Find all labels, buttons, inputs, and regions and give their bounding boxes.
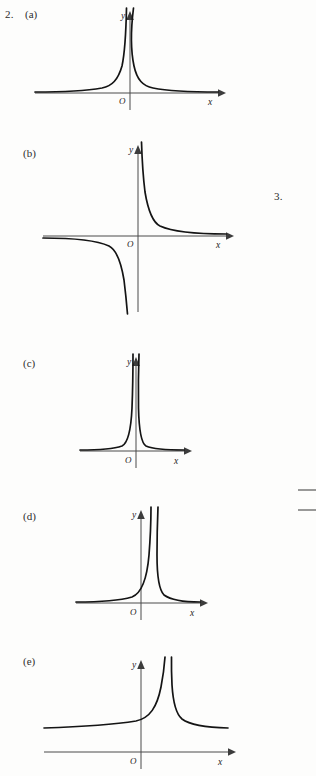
x-axis-label-d: x — [189, 608, 195, 618]
figure-d: y x O — [72, 505, 232, 625]
x-axis-label-c: x — [173, 456, 179, 466]
curve-b-left-branch — [43, 238, 128, 314]
origin-label-a: O — [119, 96, 126, 106]
x-axis-label-e: x — [217, 757, 223, 767]
curve-e-left-branch — [44, 657, 165, 728]
x-axis-arrow-e — [228, 748, 236, 756]
x-axis-arrow-a — [218, 89, 226, 97]
y-axis-arrow-b — [134, 145, 142, 154]
origin-label-c: O — [125, 455, 132, 465]
figure-label-c: (c) — [23, 357, 35, 369]
y-axis-label-d: y — [131, 510, 137, 520]
textbook-page: 2. 3. (a) y x O (b) — [0, 0, 316, 776]
figure-c: y x O — [76, 352, 206, 472]
y-axis-label-a: y — [120, 11, 126, 21]
y-axis-arrow-d — [137, 510, 145, 519]
curve-b-right-branch — [142, 142, 227, 234]
curve-c-left-branch — [80, 354, 133, 450]
curve-e-right-branch — [171, 657, 228, 728]
figure-label-d: (d) — [23, 510, 36, 522]
margin-rule-top — [298, 489, 316, 491]
x-axis-arrow-c — [184, 447, 192, 455]
y-axis-arrow-e — [137, 660, 145, 669]
next-question-number: 3. — [274, 190, 283, 202]
origin-label-d: O — [130, 607, 137, 617]
origin-label-b: O — [127, 239, 134, 249]
x-axis-arrow-b — [226, 232, 234, 240]
margin-rule-bottom — [298, 509, 316, 511]
figure-a: y x O — [30, 6, 230, 116]
figure-b: y x O — [38, 140, 243, 315]
figure-e: y x O — [40, 655, 260, 773]
question-number: 2. — [5, 8, 14, 20]
y-axis-label-e: y — [131, 660, 137, 670]
curve-c-right-branch — [138, 354, 184, 450]
y-axis-label-b: y — [128, 145, 134, 155]
figure-label-b: (b) — [23, 147, 36, 159]
curve-d-left-branch — [76, 507, 151, 602]
x-axis-label-a: x — [207, 97, 213, 107]
origin-label-e: O — [130, 756, 137, 766]
curve-a-left-branch — [35, 8, 127, 92]
y-axis-label-c: y — [126, 357, 132, 367]
x-axis-arrow-d — [200, 599, 208, 607]
curve-a-right-branch — [131, 8, 218, 92]
x-axis-label-b: x — [215, 240, 221, 250]
figure-label-e: (e) — [23, 655, 35, 667]
curve-d-right-branch — [157, 507, 200, 602]
